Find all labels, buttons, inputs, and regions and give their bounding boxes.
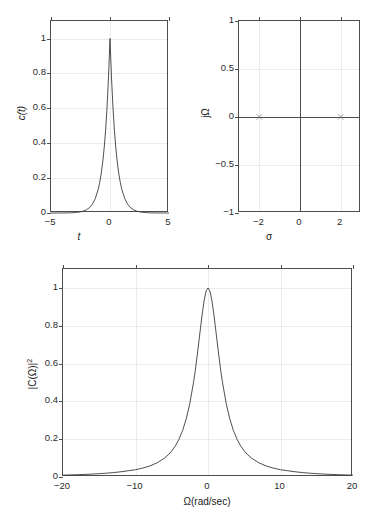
y-tick-label: 0.8 xyxy=(26,320,58,330)
x-tick-label: 5 xyxy=(148,217,188,227)
data-curve-time-domain xyxy=(51,21,169,213)
y-tick-label: 0 xyxy=(14,207,46,217)
data-curve-spectral-density xyxy=(63,269,353,477)
y-axis-tick xyxy=(235,213,239,214)
x-tick-label: 2 xyxy=(320,217,360,227)
x-tick-label: 0 xyxy=(187,481,227,491)
plot-panel-time-domain: 00.20.40.60.81 −505 c(t) t xyxy=(0,0,190,245)
x-axis-label-s-plane: σ xyxy=(239,232,299,242)
y-tick-label: −1 xyxy=(202,207,234,217)
x-tick-label: 0 xyxy=(89,217,129,227)
curve-path xyxy=(63,288,353,475)
x-axis-label-time-domain: t xyxy=(49,232,109,242)
plot-axes-spectral-density xyxy=(62,268,352,476)
pole-marker xyxy=(257,114,262,119)
y-axis-tick xyxy=(59,477,63,478)
y-axis-label-spectral-density: |C(Ω)|2 xyxy=(26,336,38,412)
x-tick-label: −5 xyxy=(30,217,70,227)
y-axis-label-time-domain: c(t) xyxy=(17,83,27,143)
plot-panel-s-plane: −1−0.500.51 −202 jΩ σ xyxy=(190,0,375,245)
y-axis-tick xyxy=(47,213,51,214)
plot-panel-spectral-density: 00.20.40.60.81 −20−1001020 |C(Ω)|2 Ω(rad… xyxy=(0,245,375,519)
y-axis-label-exponent: 2 xyxy=(26,359,33,363)
y-tick-label: −0.5 xyxy=(202,159,234,169)
x-axis-tick xyxy=(169,17,170,21)
plot-axes-s-plane xyxy=(238,20,360,212)
curve-path xyxy=(51,38,169,213)
y-tick-label: 1 xyxy=(202,15,234,25)
y-tick-label: 0.8 xyxy=(14,67,46,77)
x-tick-label: −20 xyxy=(42,481,82,491)
y-tick-label: 1 xyxy=(26,282,58,292)
x-tick-label: 0 xyxy=(279,217,319,227)
pole-marker-layer xyxy=(239,21,361,213)
y-axis-label-s-plane: jΩ xyxy=(201,83,211,143)
x-tick-label: −2 xyxy=(238,217,278,227)
x-axis-label-spectral-density: Ω(rad/sec) xyxy=(147,497,267,507)
x-tick-label: 10 xyxy=(260,481,300,491)
y-tick-label: 1 xyxy=(14,33,46,43)
x-tick-label: 20 xyxy=(332,481,372,491)
y-tick-label: 0.5 xyxy=(202,63,234,73)
y-tick-label: 0.2 xyxy=(14,172,46,182)
y-axis-label-base: |C(Ω)| xyxy=(27,363,38,390)
y-tick-label: 0.2 xyxy=(26,433,58,443)
pole-marker xyxy=(338,114,343,119)
x-tick-label: −10 xyxy=(115,481,155,491)
figure-canvas: 00.20.40.60.81 −505 c(t) t −1−0.500.51 −… xyxy=(0,0,375,519)
x-axis-tick xyxy=(353,265,354,269)
plot-axes-time-domain xyxy=(50,20,168,212)
